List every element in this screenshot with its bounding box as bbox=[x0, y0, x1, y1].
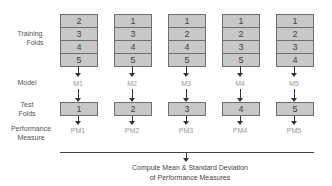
summary-line1: Compute Mean & Standard Deviation bbox=[100, 163, 280, 173]
training-fold: 3 bbox=[223, 41, 259, 54]
training-fold: 2 bbox=[61, 15, 97, 28]
training-folds-stack-5: 1 2 3 4 bbox=[276, 14, 314, 67]
arrow-down-icon bbox=[129, 121, 135, 125]
training-fold: 1 bbox=[223, 15, 259, 28]
training-fold: 4 bbox=[115, 41, 151, 54]
arrow-down-icon bbox=[183, 73, 189, 77]
model-name: M3 bbox=[167, 79, 205, 88]
summary-text: Compute Mean & Standard Deviation of Per… bbox=[100, 163, 280, 183]
training-fold: 1 bbox=[115, 15, 151, 28]
performance-measure: PM3 bbox=[167, 126, 205, 135]
training-folds-stack-3: 1 2 4 5 bbox=[168, 14, 206, 67]
arrow-down-icon bbox=[129, 73, 135, 77]
test-fold-box: 4 bbox=[222, 102, 260, 116]
test-label-line1: Test bbox=[2, 100, 52, 109]
arrow-down-icon bbox=[75, 121, 81, 125]
model-label: Model bbox=[2, 78, 52, 87]
training-label-line2: Folds bbox=[2, 38, 58, 47]
model-name: M4 bbox=[221, 79, 259, 88]
training-label-line1: Training bbox=[2, 29, 58, 38]
training-fold: 2 bbox=[277, 28, 313, 41]
model-name: M5 bbox=[275, 79, 313, 88]
training-fold: 5 bbox=[223, 54, 259, 66]
training-fold: 4 bbox=[169, 41, 205, 54]
arrow-down-icon bbox=[183, 121, 189, 125]
model-name: M2 bbox=[113, 79, 151, 88]
summary-line2: of Performance Measures bbox=[100, 173, 280, 183]
test-fold-box: 2 bbox=[114, 102, 152, 116]
performance-label-line1: Performance bbox=[0, 124, 62, 133]
training-folds-stack-2: 1 3 4 5 bbox=[114, 14, 152, 67]
training-folds-stack-4: 1 2 3 5 bbox=[222, 14, 260, 67]
test-folds-label: Test Folds bbox=[2, 100, 52, 118]
arrow-down-icon bbox=[291, 73, 297, 77]
test-fold-box: 3 bbox=[168, 102, 206, 116]
training-fold: 2 bbox=[169, 28, 205, 41]
model-label-text: Model bbox=[2, 78, 52, 87]
training-folds-label: Training Folds bbox=[2, 29, 58, 47]
test-label-line2: Folds bbox=[2, 109, 52, 118]
training-fold: 4 bbox=[277, 54, 313, 66]
training-fold: 1 bbox=[277, 15, 313, 28]
arrow-down-icon bbox=[291, 121, 297, 125]
performance-measure-label: Performance Measure bbox=[0, 124, 62, 142]
aggregation-line bbox=[60, 152, 314, 153]
training-fold: 5 bbox=[169, 54, 205, 66]
training-fold: 4 bbox=[61, 41, 97, 54]
arrow-down-icon bbox=[183, 158, 189, 162]
training-fold: 5 bbox=[61, 54, 97, 66]
performance-measure: PM4 bbox=[221, 126, 259, 135]
training-fold: 3 bbox=[61, 28, 97, 41]
training-folds-stack-1: 2 3 4 5 bbox=[60, 14, 98, 67]
test-fold-box: 5 bbox=[276, 102, 314, 116]
model-name: M1 bbox=[59, 79, 97, 88]
performance-measure: PM5 bbox=[275, 126, 313, 135]
performance-label-line2: Measure bbox=[0, 133, 62, 142]
training-fold: 2 bbox=[223, 28, 259, 41]
arrow-down-icon bbox=[237, 73, 243, 77]
arrow-down-icon bbox=[237, 121, 243, 125]
training-fold: 1 bbox=[169, 15, 205, 28]
arrow-down-icon bbox=[75, 73, 81, 77]
test-fold-box: 1 bbox=[60, 102, 98, 116]
training-fold: 3 bbox=[277, 41, 313, 54]
training-fold: 5 bbox=[115, 54, 151, 66]
training-fold: 3 bbox=[115, 28, 151, 41]
performance-measure: PM2 bbox=[113, 126, 151, 135]
performance-measure: PM1 bbox=[59, 126, 97, 135]
